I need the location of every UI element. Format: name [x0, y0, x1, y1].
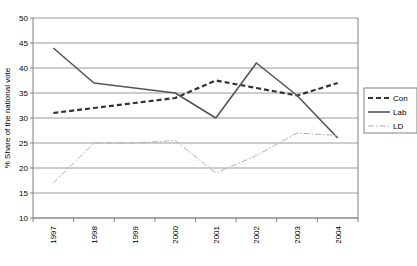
x-axis-tick-labels: 19971998199920002001200220032004: [49, 225, 342, 243]
footer-note: [0, 256, 417, 266]
y-tick-label: 15: [19, 189, 28, 198]
y-axis-tick-labels: 101520253035404550: [19, 14, 28, 223]
y-tick-label: 50: [19, 14, 28, 23]
y-tick-label: 25: [19, 139, 28, 148]
y-tick-label: 45: [19, 39, 28, 48]
y-tick-label: 35: [19, 89, 28, 98]
x-tick-label: 2001: [212, 225, 221, 243]
x-tick-label: 1999: [131, 225, 140, 243]
y-tick-label: 20: [19, 164, 28, 173]
line-chart: 101520253035404550 199719981999200020012…: [0, 0, 417, 266]
y-axis-title: % Share of the national vote: [3, 67, 12, 168]
chart-legend: ConLabLD: [364, 88, 417, 133]
x-tick-label: 2004: [334, 225, 343, 243]
y-axis-title-text: % Share of the national vote: [3, 67, 12, 168]
y-tick-label: 30: [19, 114, 28, 123]
x-axis-tick-marks: [33, 218, 358, 222]
x-tick-label: 2000: [171, 225, 180, 243]
legend-label-ld: LD: [393, 122, 403, 131]
x-tick-label: 2002: [252, 225, 261, 243]
chart-container: 101520253035404550 199719981999200020012…: [0, 0, 417, 266]
series-line-con: [53, 81, 337, 114]
x-tick-label: 1997: [49, 225, 58, 243]
gridlines: [33, 18, 358, 218]
y-tick-label: 40: [19, 64, 28, 73]
x-tick-label: 2003: [293, 225, 302, 243]
series-line-ld: [53, 133, 337, 183]
legend-label-lab: Lab: [393, 108, 407, 117]
x-tick-label: 1998: [90, 225, 99, 243]
legend-label-con: Con: [393, 94, 408, 103]
y-tick-label: 10: [19, 214, 28, 223]
